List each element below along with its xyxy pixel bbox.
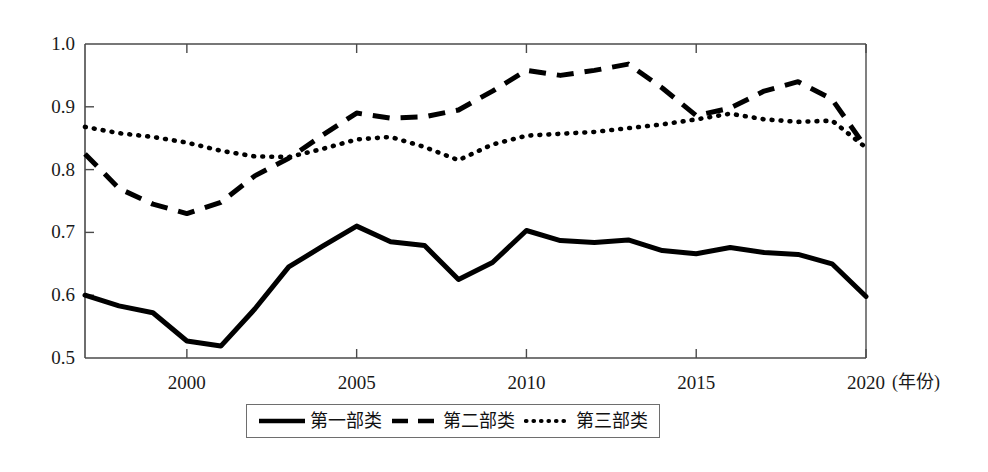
x-axis-label-2005: 2005	[317, 373, 397, 392]
legend-label-series-1: 第一部类	[310, 412, 382, 430]
line-chart-plot	[0, 0, 988, 472]
legend-label-series-3: 第三部类	[576, 412, 648, 430]
chart-container: 0.50.60.70.80.91.0 20002005201020152020 …	[0, 0, 988, 472]
series-line-2	[85, 64, 866, 213]
x-axis-label-2015: 2015	[656, 373, 736, 392]
chart-legend: 第一部类 第二部类 第三部类	[246, 404, 660, 438]
series-line-1	[85, 226, 866, 346]
x-axis-label-2010: 2010	[486, 373, 566, 392]
legend-swatch-solid	[258, 415, 306, 427]
y-axis-label-0-5: 0.5	[27, 348, 75, 367]
axis-frame	[85, 44, 866, 358]
series-line-3	[85, 114, 866, 160]
series-layer	[85, 64, 866, 346]
y-axis-label-0-8: 0.8	[27, 160, 75, 179]
legend-item-series-3: 第三部类	[524, 412, 648, 430]
legend-item-series-2: 第二部类	[391, 412, 515, 430]
y-axis-label-1-0: 1.0	[27, 34, 75, 53]
x-axis-label-2000: 2000	[147, 373, 227, 392]
legend-swatch-dotted	[524, 415, 572, 427]
y-axis-label-0-6: 0.6	[27, 285, 75, 304]
legend-swatch-dashed	[391, 415, 439, 427]
legend-label-series-2: 第二部类	[443, 412, 515, 430]
axis-tick-marks	[85, 44, 866, 358]
y-axis-label-0-9: 0.9	[27, 97, 75, 116]
legend-item-series-1: 第一部类	[258, 412, 382, 430]
y-axis-label-0-7: 0.7	[27, 222, 75, 241]
x-axis-title: (年份)	[892, 373, 940, 392]
